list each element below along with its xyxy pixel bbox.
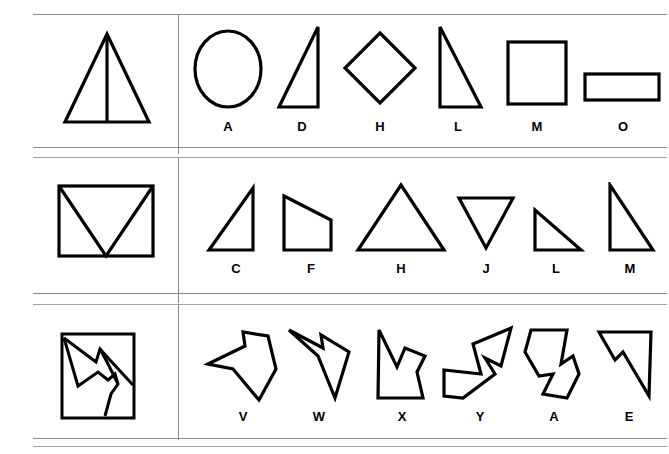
rule-row3-top [33,304,667,305]
shape-irregular-polygon-a [511,322,597,410]
option-row1-O[interactable]: O [579,24,667,134]
option-row1-D[interactable]: D [271,24,333,134]
shape-right-triangle-left-vertical-tall [593,182,667,262]
option-label: A [511,410,597,424]
shape-irregular-polygon-e [591,322,667,410]
option-row2-M[interactable]: M [593,182,667,276]
option-label: F [275,262,347,276]
option-row2-J[interactable]: J [451,182,521,276]
rule-row3-bottom [33,438,667,439]
option-row1-L[interactable]: L [427,24,489,134]
shape-small-right-triangle-left-vertical [523,182,589,262]
rule-top [33,14,667,15]
shape-narrow-right-triangle [271,24,333,120]
test-row-1: A D H [0,16,669,146]
prompt-cell-row-1 [33,16,178,146]
option-label: D [271,120,333,134]
shape-irregular-polygon-w [275,322,363,410]
prompt-figure-square-with-zigzag-polygon [55,328,151,424]
option-row1-M[interactable]: M [497,24,577,134]
option-label: H [337,120,423,134]
option-label: X [359,410,445,424]
option-label: L [427,120,489,134]
shape-wide-rectangle [579,24,667,120]
option-label: A [189,120,267,134]
shape-circle [189,24,267,120]
option-label: M [497,120,577,134]
option-row2-C[interactable]: C [201,182,271,276]
test-row-3: V W X [0,306,669,438]
option-row3-X[interactable]: X [359,322,445,424]
shape-wide-isosceles-triangle [351,182,451,262]
prompt-figure-rectangle-with-v-diagonals [55,182,159,262]
rule-bottom [33,446,667,447]
shape-right-triangle-right-vertical [201,182,271,262]
option-label: C [201,262,271,276]
option-row3-A[interactable]: A [511,322,597,424]
option-row1-H[interactable]: H [337,24,423,134]
shape-irregular-polygon-x [359,322,445,410]
test-sheet: A D H [0,0,669,454]
rule-row2-bottom [33,293,667,294]
shape-right-trapezoid [275,182,347,262]
option-label: M [593,262,667,276]
option-label: J [451,262,521,276]
option-row2-H[interactable]: H [351,182,451,276]
option-label: O [579,120,667,134]
option-row3-W[interactable]: W [275,322,363,424]
shape-inverted-triangle [451,182,521,262]
option-label: W [275,410,363,424]
options-cell-row-2: C F H [179,160,667,292]
option-row2-L[interactable]: L [523,182,589,276]
test-row-2: C F H [0,160,669,292]
option-row3-E[interactable]: E [591,322,667,424]
options-cell-row-1: A D H [179,16,667,146]
shape-right-triangle-left-vertical [427,24,489,120]
option-label: L [523,262,589,276]
rule-row1-bottom [33,147,667,148]
prompt-cell-row-2 [33,160,178,292]
prompt-figure-triangle-with-median-line [61,28,153,128]
rule-row2-top [33,157,667,158]
option-row2-F[interactable]: F [275,182,347,276]
option-label: H [351,262,451,276]
option-label: E [591,410,667,424]
shape-diamond [337,24,423,120]
shape-square [497,24,577,120]
options-cell-row-3: V W X [179,306,667,438]
prompt-cell-row-3 [33,306,178,438]
option-row1-A[interactable]: A [189,24,267,134]
